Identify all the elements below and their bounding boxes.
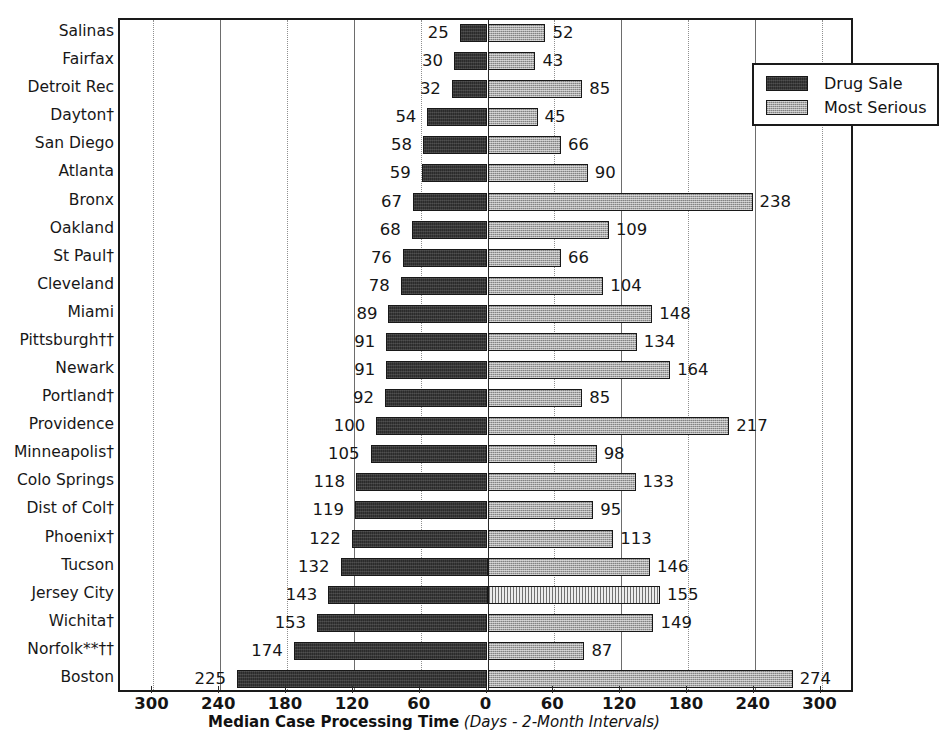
bar-drug-sale — [352, 530, 488, 548]
bar-most-serious — [488, 501, 594, 519]
bar-most-serious — [488, 24, 546, 42]
category-label-dist-of-col: Dist of Col† — [0, 499, 114, 518]
bar-row: 132146 — [120, 554, 851, 582]
category-label-oakland: Oakland — [0, 219, 114, 238]
value-label-most-serious: 217 — [736, 416, 768, 435]
category-label-miami: Miami — [0, 303, 114, 322]
category-label-wichita: Wichita† — [0, 612, 114, 631]
x-tick-label-3: 120 — [335, 694, 369, 714]
x-tick-mark--240 — [218, 686, 219, 693]
value-label-drug-sale: 122 — [309, 529, 341, 548]
category-label-dayton: Dayton† — [0, 106, 114, 125]
bar-row: 5445 — [120, 104, 851, 132]
bar-row: 5866 — [120, 132, 851, 160]
x-axis-title: Median Case Processing Time (Days - 2-Mo… — [0, 713, 868, 731]
bar-row: 153149 — [120, 610, 851, 638]
x-tick-mark-300 — [820, 686, 821, 693]
x-tick-mark--120 — [352, 686, 353, 693]
bar-drug-sale — [371, 445, 488, 463]
x-tick-label-8: 180 — [669, 694, 703, 714]
category-label-atlanta: Atlanta — [0, 162, 114, 181]
x-tick-mark--180 — [285, 686, 286, 693]
bar-drug-sale — [422, 164, 488, 182]
bar-most-serious — [488, 558, 651, 576]
bar-drug-sale — [328, 586, 487, 604]
x-tick-label-5: 0 — [480, 694, 491, 714]
bar-most-serious — [488, 277, 604, 295]
value-label-most-serious: 164 — [677, 360, 709, 379]
bar-drug-sale — [294, 642, 488, 660]
bar-drug-sale — [237, 670, 488, 688]
bar-drug-sale — [317, 614, 487, 632]
bar-drug-sale — [460, 24, 488, 42]
bar-most-serious — [488, 52, 536, 70]
bar-drug-sale — [403, 249, 488, 267]
x-tick-mark-240 — [753, 686, 754, 693]
bar-most-serious — [488, 530, 614, 548]
x-tick-label-0: 300 — [134, 694, 168, 714]
category-label-newark: Newark — [0, 359, 114, 378]
value-label-drug-sale: 54 — [395, 107, 416, 126]
bar-row: 100217 — [120, 413, 851, 441]
bar-most-serious — [488, 80, 583, 98]
category-label-detroit-rec: Detroit Rec — [0, 78, 114, 97]
category-label-minneapolis: Minneapolis† — [0, 443, 114, 462]
bar-most-serious — [488, 445, 597, 463]
value-label-most-serious: 98 — [604, 444, 625, 463]
value-label-drug-sale: 132 — [298, 557, 330, 576]
value-label-most-serious: 109 — [616, 220, 648, 239]
legend-label-most-serious: Most Serious — [824, 98, 927, 118]
x-tick-mark--300 — [151, 686, 152, 693]
legend-swatch-drug-sale — [766, 76, 808, 91]
x-tick-label-1: 240 — [201, 694, 235, 714]
x-tick-mark--60 — [419, 686, 420, 693]
bar-drug-sale — [454, 52, 487, 70]
x-tick-label-2: 180 — [268, 694, 302, 714]
legend-swatch-most-serious — [766, 100, 808, 115]
category-label-boston: Boston — [0, 668, 114, 687]
x-tick-label-6: 60 — [541, 694, 564, 714]
x-tick-mark-60 — [552, 686, 553, 693]
value-label-most-serious: 274 — [800, 669, 832, 688]
value-label-drug-sale: 100 — [334, 416, 366, 435]
value-label-drug-sale: 91 — [354, 332, 375, 351]
value-label-most-serious: 134 — [644, 332, 676, 351]
value-label-drug-sale: 118 — [314, 472, 346, 491]
bar-most-serious — [488, 249, 562, 267]
bar-row: 89148 — [120, 301, 851, 329]
value-label-drug-sale: 119 — [312, 500, 344, 519]
value-label-most-serious: 45 — [545, 107, 566, 126]
category-label-bronx: Bronx — [0, 191, 114, 210]
bar-most-serious — [488, 193, 753, 211]
x-tick-mark-120 — [619, 686, 620, 693]
category-label-providence: Providence — [0, 415, 114, 434]
bar-row: 91134 — [120, 329, 851, 357]
x-tick-mark-180 — [686, 686, 687, 693]
value-label-drug-sale: 32 — [420, 79, 441, 98]
bar-drug-sale — [376, 417, 487, 435]
bar-row: 5990 — [120, 160, 851, 188]
chart-legend: Drug Sale Most Serious — [752, 63, 939, 126]
value-label-most-serious: 133 — [643, 472, 675, 491]
category-label-portland: Portland† — [0, 387, 114, 406]
bar-row: 67238 — [120, 189, 851, 217]
value-label-drug-sale: 89 — [356, 304, 377, 323]
value-label-drug-sale: 153 — [275, 613, 307, 632]
bar-row: 3285 — [120, 76, 851, 104]
value-label-drug-sale: 25 — [428, 23, 449, 42]
plot-area: 2552304332855445586659906723868109766678… — [118, 18, 853, 692]
x-tick-label-10: 300 — [802, 694, 836, 714]
bar-row: 122113 — [120, 526, 851, 554]
bar-row: 118133 — [120, 469, 851, 497]
bar-row: 17487 — [120, 638, 851, 666]
value-label-most-serious: 95 — [600, 500, 621, 519]
value-label-drug-sale: 143 — [286, 585, 318, 604]
value-label-drug-sale: 91 — [354, 360, 375, 379]
value-label-drug-sale: 30 — [422, 51, 443, 70]
category-label-san-diego: San Diego — [0, 134, 114, 153]
value-label-most-serious: 146 — [657, 557, 689, 576]
bar-row: 2552 — [120, 20, 851, 48]
bar-most-serious — [488, 108, 538, 126]
bar-most-serious — [488, 136, 562, 154]
value-label-drug-sale: 174 — [251, 641, 283, 660]
